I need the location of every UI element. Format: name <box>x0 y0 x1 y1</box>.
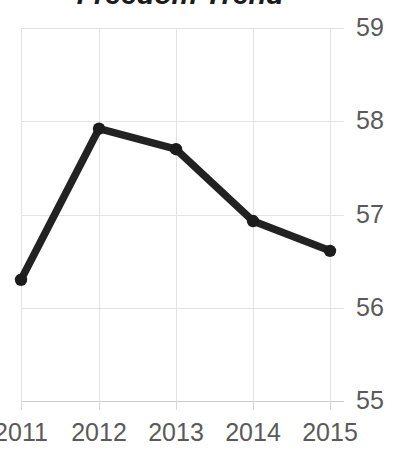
data-point-marker <box>170 143 182 155</box>
data-point-marker <box>324 245 336 257</box>
chart-container: Freedom Trend 55565758592011201220132014… <box>0 0 397 457</box>
series-line-chart <box>0 0 397 457</box>
data-point-marker <box>15 274 27 286</box>
data-point-marker <box>93 123 105 135</box>
data-point-marker <box>247 215 259 227</box>
